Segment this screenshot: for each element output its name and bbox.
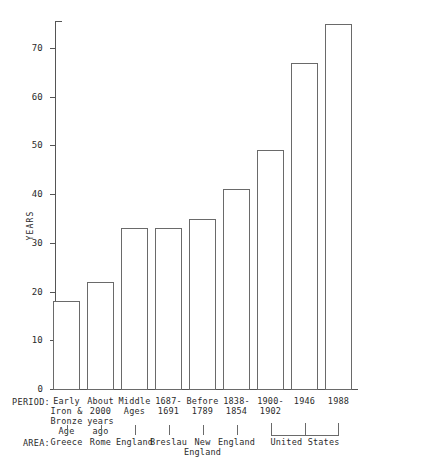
area-leader-line bbox=[101, 425, 102, 435]
y-axis-tick bbox=[50, 97, 56, 98]
area-leader-line bbox=[67, 425, 68, 435]
bar bbox=[291, 63, 318, 390]
area-group-label: United States bbox=[255, 437, 355, 447]
y-axis-tick-label: 0 bbox=[19, 385, 43, 394]
bar bbox=[121, 228, 148, 390]
bar bbox=[53, 301, 80, 390]
area-leader-line bbox=[203, 425, 204, 435]
bar bbox=[155, 228, 182, 390]
y-axis-cap bbox=[55, 21, 62, 22]
y-axis-tick-label: 50 bbox=[19, 141, 43, 150]
bar bbox=[223, 189, 250, 390]
period-label: 1988 bbox=[312, 396, 366, 406]
y-axis-tick bbox=[50, 194, 56, 195]
chart-canvas: YEARS 010203040506070 PERIOD: AREA: Earl… bbox=[0, 0, 422, 474]
y-axis-tick bbox=[50, 243, 56, 244]
area-group-tick bbox=[305, 423, 306, 436]
y-axis-tick bbox=[50, 292, 56, 293]
y-axis-tick bbox=[50, 48, 56, 49]
area-leader-line bbox=[237, 425, 238, 435]
area-leader-line bbox=[135, 425, 136, 435]
area-leader-line bbox=[169, 425, 170, 435]
y-axis-tick-label: 70 bbox=[19, 44, 43, 53]
bar bbox=[257, 150, 284, 390]
y-axis-tick-label: 20 bbox=[19, 288, 43, 297]
bar bbox=[325, 24, 352, 390]
bar bbox=[189, 219, 216, 390]
y-axis-tick-label: 30 bbox=[19, 239, 43, 248]
bar bbox=[87, 282, 114, 390]
y-axis-tick-label: 10 bbox=[19, 336, 43, 345]
y-axis-tick bbox=[50, 145, 56, 146]
y-axis-tick-label: 60 bbox=[19, 93, 43, 102]
y-axis-tick-label: 40 bbox=[19, 190, 43, 199]
